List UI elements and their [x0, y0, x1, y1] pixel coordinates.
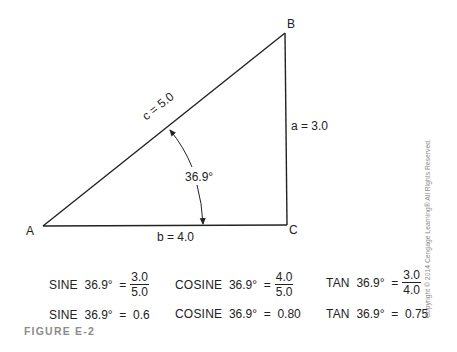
figure-canvas: A B C c = 5.0 a = 3.0 b = 4.0 36.9° SINE…	[0, 0, 457, 352]
fraction: 3.05.0	[130, 271, 149, 298]
angle-value: 36.9°	[356, 277, 384, 289]
equals-sign: =	[119, 279, 126, 291]
denominator: 5.0	[131, 285, 148, 298]
angle-value: 36.9°	[356, 308, 384, 320]
angle-value: 36.9°	[84, 309, 112, 321]
denominator: 4.0	[403, 283, 420, 296]
vertex-a-label: A	[26, 225, 34, 237]
function-name: TAN	[326, 277, 350, 289]
sine-decimal-equation: SINE 36.9° = 0.6	[49, 309, 150, 321]
vertex-b-label: B	[287, 18, 295, 30]
angle-value: 36.9°	[229, 279, 257, 291]
angle-value: 36.9°	[229, 308, 257, 320]
function-name: COSINE	[175, 308, 222, 320]
numerator: 3.0	[402, 269, 421, 283]
function-name: SINE	[49, 309, 78, 321]
angle-arc-upper-arrow	[170, 130, 192, 167]
adjacent-side-label: b = 4.0	[157, 231, 194, 243]
equals-sign: =	[264, 279, 271, 291]
result-value: 0.80	[277, 308, 300, 320]
figure-caption: FIGURE E-2	[24, 325, 95, 337]
angle-value: 36.9°	[84, 279, 112, 291]
fraction: 3.04.0	[402, 269, 421, 296]
equals-sign: =	[391, 277, 398, 289]
opposite-side-label: a = 3.0	[291, 120, 328, 132]
side-c-hypotenuse	[43, 33, 285, 226]
cosine-decimal-equation: COSINE 36.9° = 0.80	[175, 308, 301, 320]
function-name: COSINE	[175, 279, 222, 291]
function-name: SINE	[49, 279, 78, 291]
denominator: 5.0	[276, 285, 293, 298]
right-triangle	[43, 33, 287, 226]
equals-sign: =	[264, 308, 271, 320]
result-value: 0.6	[133, 309, 150, 321]
numerator: 3.0	[130, 271, 149, 285]
fraction: 4.05.0	[275, 271, 294, 298]
cosine-fraction-equation: COSINE 36.9° = 4.05.0	[175, 271, 293, 298]
numerator: 4.0	[275, 271, 294, 285]
side-b-base	[43, 225, 287, 226]
function-name: TAN	[326, 308, 350, 320]
equals-sign: =	[391, 308, 398, 320]
tan-decimal-equation: TAN 36.9° = 0.75	[326, 308, 428, 320]
angle-label: 36.9°	[185, 171, 213, 183]
tan-fraction-equation: TAN 36.9° = 3.04.0	[326, 269, 421, 296]
sine-fraction-equation: SINE 36.9° = 3.05.0	[49, 271, 149, 298]
vertex-c-label: C	[289, 224, 298, 236]
angle-arc-lower-arrow	[197, 185, 203, 224]
triangle-diagram	[0, 0, 457, 352]
side-a-vertical	[285, 33, 287, 225]
equals-sign: =	[119, 309, 126, 321]
copyright-notice: Copyright © 2014 Cengage Learning® All R…	[424, 139, 431, 318]
